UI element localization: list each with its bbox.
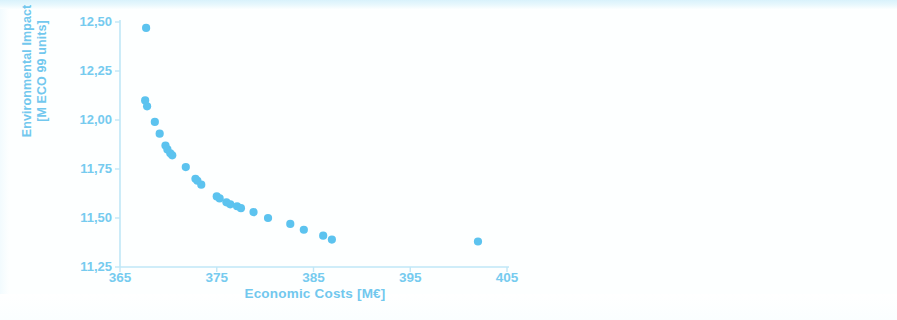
data-point [319, 232, 327, 240]
data-point [151, 118, 159, 126]
data-point [328, 235, 336, 243]
plot-area [0, 0, 897, 320]
axis-lines [120, 20, 509, 267]
scatter-chart-figure: Environmental Impact [M ECO 99 units] Ec… [0, 0, 897, 320]
data-point [264, 214, 272, 222]
data-point [474, 237, 482, 245]
data-point [142, 24, 150, 32]
data-point [168, 151, 176, 159]
data-point [143, 102, 151, 110]
data-point [249, 208, 257, 216]
data-point [300, 226, 308, 234]
data-point-group [141, 24, 482, 246]
data-point [237, 204, 245, 212]
data-point [197, 181, 205, 189]
data-point [286, 220, 294, 228]
data-point [182, 163, 190, 171]
data-point [156, 130, 164, 138]
